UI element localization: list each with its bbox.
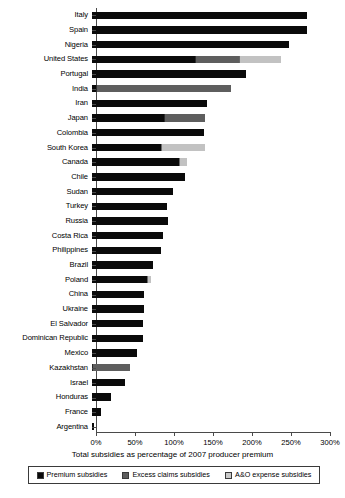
bar-segment-premium — [92, 158, 179, 165]
bar-track — [92, 37, 345, 52]
x-tick-label: 200% — [242, 438, 261, 447]
category-label: Chile — [0, 173, 92, 181]
x-tick-label: 250% — [281, 438, 300, 447]
bar-track — [92, 52, 345, 67]
bar-segment-premium — [92, 12, 307, 19]
stacked-bar — [92, 188, 173, 195]
bar-track — [92, 67, 345, 82]
x-tick-label: 100% — [164, 438, 183, 447]
y-tick — [92, 206, 96, 207]
bar-row: United States — [0, 52, 345, 67]
bar-segment-excess — [195, 56, 239, 63]
category-label: Dominican Republic — [0, 334, 92, 342]
legend-item-premium: Premium subsidies — [37, 471, 108, 479]
stacked-bar — [92, 129, 204, 136]
category-label: India — [0, 85, 92, 93]
bar-row: Costa Rica — [0, 228, 345, 243]
x-tick-label: 50% — [127, 438, 142, 447]
bar-track — [92, 170, 345, 185]
category-label: El Salvador — [0, 320, 92, 328]
bar-row: Poland — [0, 272, 345, 287]
bar-track — [92, 23, 345, 38]
bar-track — [92, 331, 345, 346]
legend-swatch-ao — [225, 472, 232, 479]
bar-segment-premium — [92, 129, 204, 136]
bar-track — [92, 243, 345, 258]
bar-row: Colombia — [0, 126, 345, 141]
bar-segment-premium — [92, 232, 163, 239]
bar-track — [92, 111, 345, 126]
y-tick — [92, 427, 96, 428]
stacked-bar — [92, 158, 187, 165]
bar-track — [92, 390, 345, 405]
bar-track — [92, 228, 345, 243]
bar-segment-ao — [239, 56, 281, 63]
y-tick — [92, 89, 96, 90]
subsidies-bar-chart: ItalySpainNigeriaUnited StatesPortugalIn… — [0, 0, 345, 498]
bar-track — [92, 361, 345, 376]
x-tick — [330, 432, 331, 436]
bar-row: Kazakhstan — [0, 361, 345, 376]
category-label: Portugal — [0, 70, 92, 78]
x-axis-title: Total subsidies as percentage of 2007 pr… — [0, 450, 345, 460]
bar-row: South Korea — [0, 140, 345, 155]
bar-segment-premium — [92, 247, 161, 254]
bar-track — [92, 272, 345, 287]
y-tick — [92, 30, 96, 31]
bar-rows: ItalySpainNigeriaUnited StatesPortugalIn… — [0, 8, 345, 434]
category-label: China — [0, 290, 92, 298]
legend-swatch-premium — [37, 472, 44, 479]
category-label: Russia — [0, 217, 92, 225]
category-label: Israel — [0, 379, 92, 387]
bar-row: China — [0, 287, 345, 302]
bar-row: Honduras — [0, 390, 345, 405]
x-tick-label: 150% — [203, 438, 222, 447]
x-tick — [174, 432, 175, 436]
stacked-bar — [92, 276, 151, 283]
y-tick — [92, 162, 96, 163]
y-tick — [92, 59, 96, 60]
bar-row: Canada — [0, 155, 345, 170]
bar-row: Spain — [0, 23, 345, 38]
bar-segment-premium — [92, 320, 143, 327]
y-tick — [92, 192, 96, 193]
bar-row: Turkey — [0, 199, 345, 214]
bar-track — [92, 346, 345, 361]
bar-track — [92, 258, 345, 273]
x-tick — [291, 432, 292, 436]
stacked-bar — [92, 217, 168, 224]
bar-segment-premium — [92, 349, 137, 356]
bar-segment-premium — [92, 41, 289, 48]
legend-item-ao: A&O expense subsidies — [225, 471, 311, 479]
stacked-bar — [92, 70, 246, 77]
category-label: United States — [0, 55, 92, 63]
category-label: Poland — [0, 276, 92, 284]
y-tick — [92, 295, 96, 296]
bar-row: India — [0, 81, 345, 96]
bar-segment-premium — [92, 305, 144, 312]
bar-track — [92, 287, 345, 302]
y-tick — [92, 280, 96, 281]
bar-segment-premium — [92, 276, 147, 283]
stacked-bar — [92, 41, 289, 48]
x-tick — [135, 432, 136, 436]
bar-track — [92, 214, 345, 229]
bar-row: Israel — [0, 375, 345, 390]
y-tick — [92, 177, 96, 178]
chart-legend: Premium subsidiesExcess claims subsidies… — [28, 466, 320, 484]
y-tick — [92, 45, 96, 46]
bar-row: France — [0, 405, 345, 420]
stacked-bar — [92, 364, 130, 371]
stacked-bar — [92, 144, 205, 151]
bar-track — [92, 96, 345, 111]
stacked-bar — [92, 12, 307, 19]
bar-segment-premium — [92, 217, 168, 224]
bar-track — [92, 302, 345, 317]
y-tick — [92, 104, 96, 105]
category-label: Nigeria — [0, 41, 92, 49]
x-tick — [252, 432, 253, 436]
bar-segment-premium — [92, 70, 246, 77]
y-tick — [92, 133, 96, 134]
bar-segment-premium — [92, 114, 164, 121]
bar-segment-excess — [164, 114, 205, 121]
